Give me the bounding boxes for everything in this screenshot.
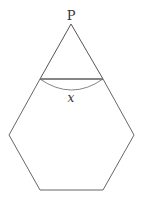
arc-label-x: x [68, 91, 75, 105]
arc-x [40, 79, 103, 90]
diagram-canvas: P x [0, 0, 142, 203]
triangle-right-side [71, 24, 103, 79]
triangle-left-side [40, 24, 71, 79]
point-label-p: P [67, 8, 76, 23]
geometry-figure: P x [0, 0, 142, 203]
